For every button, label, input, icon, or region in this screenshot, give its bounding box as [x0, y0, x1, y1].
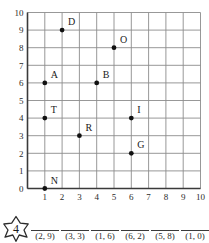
point-label-A: A — [51, 69, 59, 80]
point-N — [42, 186, 47, 191]
y-axis-tick-labels: 012345678910 — [15, 8, 25, 194]
point-G — [129, 151, 134, 156]
y-tick-9: 9 — [19, 25, 24, 35]
answer-coordinate: (1, 6) — [95, 231, 115, 242]
answer-blank-input[interactable] — [151, 220, 179, 231]
answer-strip: 4 (2, 9)(3, 3)(1, 6)(6, 2)(5, 8)(1, 0) — [0, 212, 209, 243]
answer-coordinate: (5, 8) — [155, 231, 175, 242]
grid-lines — [28, 13, 201, 189]
x-tick-3: 3 — [77, 192, 82, 202]
answer-cell: (5, 8) — [151, 220, 179, 243]
y-tick-8: 8 — [19, 43, 24, 53]
point-O — [112, 45, 117, 50]
point-label-G: G — [137, 139, 144, 150]
x-axis-tick-labels: 12345678910 — [43, 192, 206, 202]
y-tick-6: 6 — [19, 78, 24, 88]
point-R — [77, 133, 82, 138]
answers-row: (2, 9)(3, 3)(1, 6)(6, 2)(5, 8)(1, 0) — [31, 212, 209, 243]
point-label-T: T — [51, 104, 57, 115]
y-tick-5: 5 — [19, 96, 24, 106]
x-tick-7: 7 — [146, 192, 151, 202]
x-tick-8: 8 — [164, 192, 169, 202]
x-tick-1: 1 — [43, 192, 48, 202]
data-points: DOABTIRGN — [42, 16, 144, 191]
answer-blank-input[interactable] — [61, 220, 89, 231]
point-B — [94, 81, 99, 86]
answer-cell: (3, 3) — [61, 220, 89, 243]
answer-cell: (1, 6) — [91, 220, 119, 243]
y-tick-4: 4 — [19, 113, 24, 123]
x-tick-6: 6 — [129, 192, 134, 202]
answer-coordinate: (2, 9) — [35, 231, 55, 242]
answer-blank-input[interactable] — [121, 220, 149, 231]
point-A — [42, 81, 47, 86]
point-label-O: O — [120, 34, 127, 45]
point-label-D: D — [68, 16, 75, 27]
point-label-B: B — [103, 69, 110, 80]
x-tick-9: 9 — [181, 192, 186, 202]
answer-cell: (6, 2) — [121, 220, 149, 243]
y-tick-1: 1 — [19, 166, 24, 176]
answer-coordinate: (3, 3) — [65, 231, 85, 242]
y-tick-0: 0 — [19, 184, 24, 194]
point-D — [60, 28, 65, 33]
answer-blank-input[interactable] — [181, 220, 209, 231]
answer-blank-input[interactable] — [31, 220, 59, 231]
y-tick-7: 7 — [19, 61, 24, 71]
question-number: 4 — [13, 222, 19, 236]
x-tick-5: 5 — [112, 192, 117, 202]
x-tick-4: 4 — [94, 192, 99, 202]
point-label-N: N — [51, 175, 58, 186]
star-badge-icon: 4 — [1, 215, 31, 243]
point-label-R: R — [85, 122, 92, 133]
point-label-I: I — [137, 104, 140, 115]
answer-coordinate: (6, 2) — [125, 231, 145, 242]
coordinate-plane: 012345678910 12345678910 DOABTIRGN — [0, 0, 209, 212]
y-tick-3: 3 — [19, 131, 24, 141]
graph-svg: 012345678910 12345678910 DOABTIRGN — [0, 0, 209, 212]
answer-cell: (1, 0) — [181, 220, 209, 243]
point-T — [42, 116, 47, 121]
y-tick-10: 10 — [15, 8, 25, 18]
point-I — [129, 116, 134, 121]
answer-coordinate: (1, 0) — [185, 231, 205, 242]
x-tick-2: 2 — [60, 192, 65, 202]
y-tick-2: 2 — [19, 149, 24, 159]
answer-blank-input[interactable] — [91, 220, 119, 231]
answer-cell: (2, 9) — [31, 220, 59, 243]
x-tick-10: 10 — [196, 192, 206, 202]
